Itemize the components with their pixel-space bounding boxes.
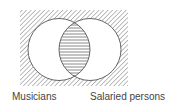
- salaried-persons-label: Salaried persons: [90, 91, 165, 103]
- musicians-label: Musicians: [12, 91, 56, 103]
